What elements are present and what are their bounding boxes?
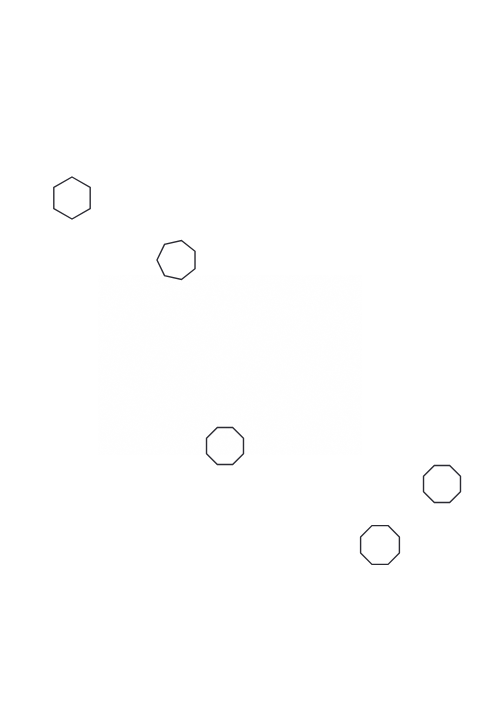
canvas-background	[0, 0, 498, 718]
polygon-shape-layer	[0, 0, 498, 718]
shape-canvas	[0, 0, 498, 718]
